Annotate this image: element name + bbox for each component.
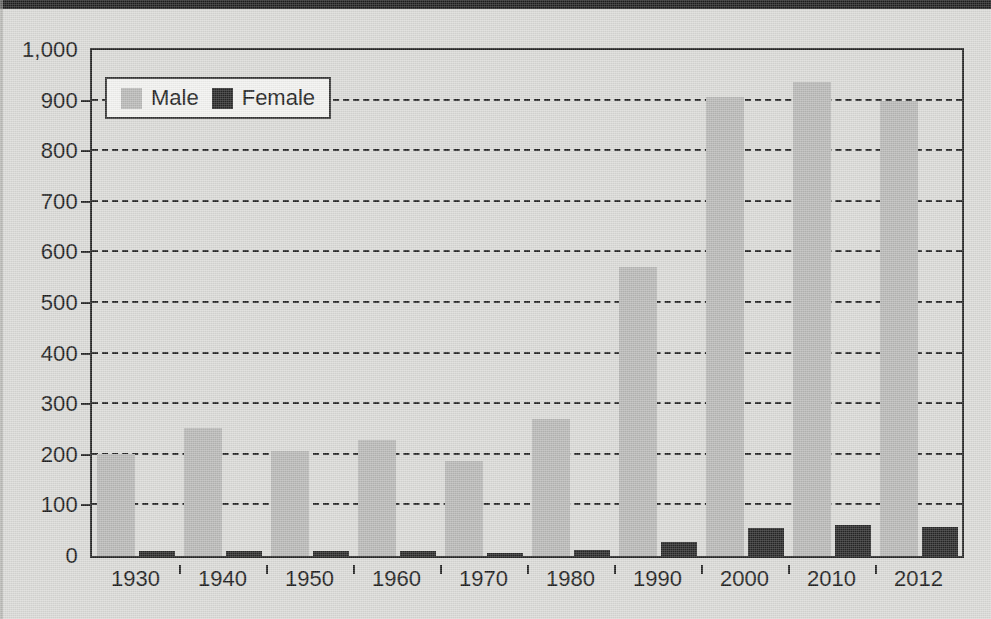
y-tick-mark-200 [81,454,90,456]
y-tick-mark-400 [81,353,90,355]
bar-female-1980 [574,550,610,556]
legend-entry-female: Female [212,85,315,111]
bar-male-2010 [793,82,831,556]
y-axis: 1,0009008007006005004003002001000 [0,48,78,558]
x-tick-label-2000: 2000 [720,566,769,592]
y-tick-mark-900 [81,100,90,102]
bar-female-1940 [226,551,262,556]
x-tick-label-1940: 1940 [198,566,247,592]
y-tick-label-700: 700 [41,189,78,215]
bar-male-2000 [706,97,744,556]
y-tick-mark-700 [81,201,90,203]
x-tick-label-2012: 2012 [894,566,943,592]
y-tick-label-100: 100 [41,492,78,518]
y-tick-mark-500 [81,302,90,304]
y-tick-mark-800 [81,150,90,152]
y-tick-mark-100 [81,504,90,506]
legend-label-male: Male [151,85,199,111]
x-tick-mark-1 [179,565,181,574]
y-tick-label-400: 400 [41,341,78,367]
x-tick-mark-2 [266,565,268,574]
scan-artifact-top-band [0,0,991,9]
bar-female-2010 [835,525,871,556]
x-tick-mark-9 [875,565,877,574]
bar-female-1970 [487,553,523,556]
bar-female-1990 [661,542,697,556]
x-tick-mark-3 [353,565,355,574]
y-tick-label-900: 900 [41,88,78,114]
x-tick-mark-4 [440,565,442,574]
x-tick-mark-7 [701,565,703,574]
x-tick-label-1970: 1970 [459,566,508,592]
male-swatch-icon [121,88,142,109]
bar-female-1960 [400,551,436,556]
x-tick-label-1960: 1960 [372,566,421,592]
x-tick-label-1930: 1930 [111,566,160,592]
plot-area [90,48,964,558]
x-tick-mark-6 [614,565,616,574]
x-tick-label-2010: 2010 [807,566,856,592]
bar-female-2000 [748,528,784,556]
bar-male-1960 [358,440,396,556]
female-swatch-icon [212,88,233,109]
y-tick-label-200: 200 [41,442,78,468]
bar-male-1990 [619,267,657,556]
bar-male-1970 [445,461,483,556]
bar-male-1930 [97,454,135,556]
bar-male-2012 [880,101,918,556]
y-tick-label-600: 600 [41,239,78,265]
legend-label-female: Female [242,85,315,111]
y-tick-label-800: 800 [41,138,78,164]
y-tick-label-500: 500 [41,290,78,316]
bar-male-1940 [184,428,222,556]
x-tick-label-1980: 1980 [546,566,595,592]
x-tick-mark-5 [527,565,529,574]
bar-male-1950 [271,451,309,556]
chart-page: 1,0009008007006005004003002001000 193019… [0,0,991,619]
bars-layer [92,50,962,556]
y-tick-label-0: 0 [66,543,78,569]
bar-male-1980 [532,419,570,556]
x-tick-label-1950: 1950 [285,566,334,592]
y-tick-mark-600 [81,251,90,253]
y-tick-mark-300 [81,403,90,405]
x-tick-label-1990: 1990 [633,566,682,592]
chart-legend: Male Female [105,77,331,119]
bar-female-2012 [922,527,958,556]
y-tick-label-300: 300 [41,391,78,417]
bar-female-1950 [313,551,349,556]
legend-entry-male: Male [121,85,199,111]
y-tick-label-1000: 1,000 [22,37,78,63]
x-axis: 1930194019501960197019801990200020102012 [90,566,964,606]
x-tick-mark-8 [788,565,790,574]
bar-female-1930 [139,551,175,556]
